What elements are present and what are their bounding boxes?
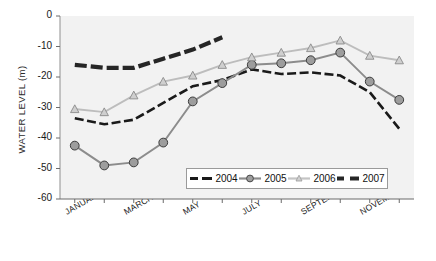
data-point-2005 xyxy=(247,60,256,69)
legend-item-2007[interactable]: 2007 xyxy=(336,173,384,184)
data-point-2005 xyxy=(395,95,404,104)
legend-item-2006[interactable]: 2006 xyxy=(287,173,335,184)
legend-label-2006: 2006 xyxy=(313,173,335,184)
legend-swatch-2004 xyxy=(189,173,213,184)
data-point-2005 xyxy=(129,158,138,167)
data-point-2005 xyxy=(218,79,227,88)
water-level-line-chart: WATER LEVEL (m) 0-10-20-30-40-50-60 JANU… xyxy=(0,0,436,261)
data-point-2005 xyxy=(70,141,79,150)
legend-swatch-2005 xyxy=(238,173,262,184)
legend-label-2004: 2004 xyxy=(215,173,237,184)
legend-label-2007: 2007 xyxy=(362,173,384,184)
data-point-2005 xyxy=(100,161,109,170)
legend-swatch-2006 xyxy=(287,173,311,184)
data-point-2005 xyxy=(365,77,374,86)
chart-legend: 2004 2005 2006 2007 xyxy=(186,168,388,189)
data-point-2005 xyxy=(336,48,345,57)
data-point-2005 xyxy=(188,97,197,106)
legend-label-2005: 2005 xyxy=(264,173,286,184)
data-point-2005 xyxy=(159,138,168,147)
plot-area xyxy=(0,0,436,261)
legend-swatch-2007 xyxy=(336,173,360,184)
data-point-2005 xyxy=(306,56,315,65)
legend-item-2004[interactable]: 2004 xyxy=(189,173,237,184)
data-point-2005 xyxy=(277,59,286,68)
legend-item-2005[interactable]: 2005 xyxy=(238,173,286,184)
